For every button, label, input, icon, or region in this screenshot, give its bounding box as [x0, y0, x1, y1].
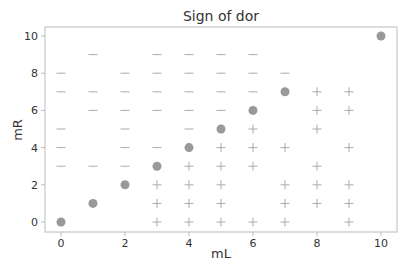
plus-marker [281, 218, 290, 227]
plus-marker [249, 218, 258, 227]
zero-marker [185, 143, 194, 152]
plus-marker [281, 199, 290, 208]
y-tick-label: 8 [31, 67, 38, 80]
plus-marker [345, 180, 354, 189]
chart-title: Sign of dor [183, 8, 259, 24]
plus-marker [185, 218, 194, 227]
plus-marker [185, 199, 194, 208]
y-axis-label: mR [10, 119, 25, 141]
plus-marker [153, 180, 162, 189]
plus-marker [153, 199, 162, 208]
y-tick-label: 2 [31, 179, 38, 192]
x-tick-label: 0 [58, 237, 65, 250]
plus-marker [249, 125, 258, 134]
x-tick-label: 10 [374, 237, 388, 250]
plus-marker [217, 199, 226, 208]
scatter-chart: Sign of dor 0246810 0246810 mL mR [0, 0, 415, 267]
zero-marker [249, 106, 258, 115]
zero-marker [377, 32, 386, 41]
plus-marker [313, 180, 322, 189]
plus-marker [313, 199, 322, 208]
y-tick-label: 10 [24, 30, 38, 43]
x-axis-label: mL [211, 246, 232, 261]
plus-marker [345, 218, 354, 227]
plus-marker [313, 162, 322, 171]
plus-marker [281, 180, 290, 189]
y-axis: 0246810 [24, 30, 45, 229]
plus-marker [153, 218, 162, 227]
plus-marker [345, 87, 354, 96]
plus-marker [217, 143, 226, 152]
plus-marker [313, 87, 322, 96]
y-tick-label: 6 [31, 104, 38, 117]
zero-marker [121, 180, 130, 189]
x-tick-label: 2 [122, 237, 129, 250]
plus-marker [345, 106, 354, 115]
plus-marker [185, 162, 194, 171]
plus-marker [345, 199, 354, 208]
plus-marker [345, 143, 354, 152]
x-tick-label: 6 [250, 237, 257, 250]
zero-marker [153, 162, 162, 171]
y-tick-label: 4 [31, 142, 38, 155]
plus-marker [217, 162, 226, 171]
plus-marker [313, 106, 322, 115]
y-tick-label: 0 [31, 216, 38, 229]
plus-marker [185, 180, 194, 189]
zero-marker [89, 199, 98, 208]
plus-marker [249, 162, 258, 171]
plus-marker [249, 143, 258, 152]
plus-marker [217, 218, 226, 227]
zero-marker [281, 87, 290, 96]
data-points [57, 32, 386, 227]
zero-marker [217, 125, 226, 134]
zero-marker [57, 218, 66, 227]
x-tick-label: 8 [314, 237, 321, 250]
plus-marker [217, 180, 226, 189]
plus-marker [281, 143, 290, 152]
plus-marker [313, 125, 322, 134]
x-tick-label: 4 [186, 237, 193, 250]
